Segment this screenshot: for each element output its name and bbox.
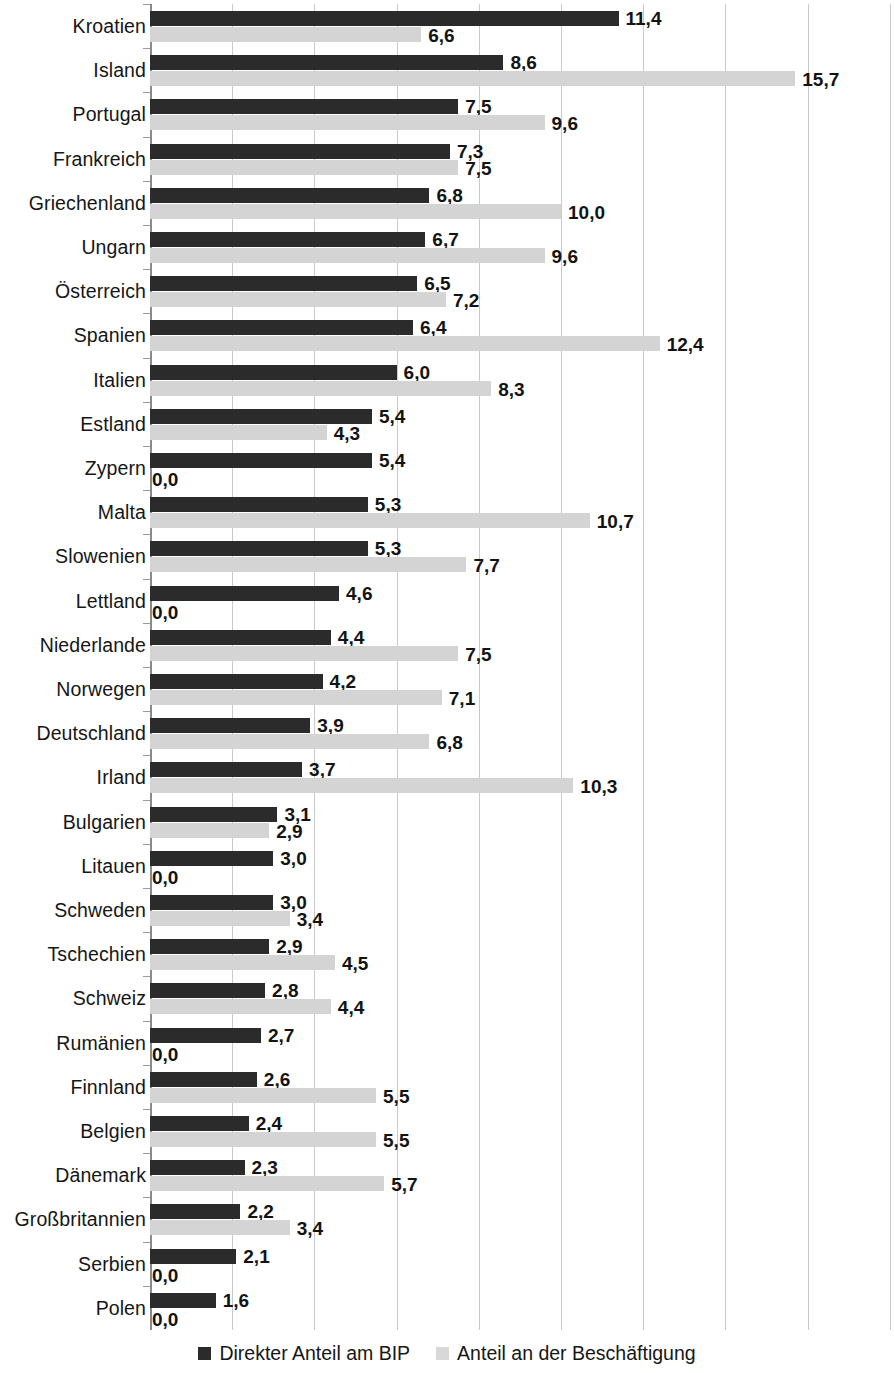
bar-gdp-share[interactable] bbox=[150, 541, 368, 556]
chart-row: Portugal7,59,6 bbox=[0, 92, 894, 136]
bar-gdp-share[interactable] bbox=[150, 188, 429, 203]
value-label-employment-share: 10,3 bbox=[580, 777, 617, 796]
bar-gdp-share[interactable] bbox=[150, 718, 310, 733]
bar-gdp-share[interactable] bbox=[150, 276, 417, 291]
bar-employment-share[interactable] bbox=[150, 381, 491, 396]
bar-employment-share[interactable] bbox=[150, 999, 331, 1014]
bar-gdp-share[interactable] bbox=[150, 453, 372, 468]
bar-gdp-share[interactable] bbox=[150, 144, 450, 159]
bar-employment-share[interactable] bbox=[150, 292, 446, 307]
category-label: Finnland bbox=[70, 1065, 146, 1109]
bar-employment-share[interactable] bbox=[150, 513, 590, 528]
category-label: Irland bbox=[97, 755, 146, 799]
category-label: Litauen bbox=[81, 844, 146, 888]
bar-gdp-share[interactable] bbox=[150, 1116, 249, 1131]
value-label-employment-share: 7,2 bbox=[453, 291, 479, 310]
bar-gdp-share[interactable] bbox=[150, 983, 265, 998]
value-label-gdp-share: 2,9 bbox=[276, 937, 302, 956]
legend-label-employment: Anteil an der Beschäftigung bbox=[457, 1342, 696, 1365]
bar-gdp-share[interactable] bbox=[150, 851, 273, 866]
bar-employment-share[interactable] bbox=[150, 248, 545, 263]
chart-row: Norwegen4,27,1 bbox=[0, 667, 894, 711]
chart-row: Spanien6,412,4 bbox=[0, 313, 894, 357]
category-label: Österreich bbox=[55, 269, 146, 313]
bar-gdp-share[interactable] bbox=[150, 55, 503, 70]
bar-gdp-share[interactable] bbox=[150, 586, 339, 601]
bar-employment-share[interactable] bbox=[150, 1132, 376, 1147]
bar-gdp-share[interactable] bbox=[150, 1072, 257, 1087]
value-label-gdp-share: 6,7 bbox=[432, 230, 458, 249]
bar-gdp-share[interactable] bbox=[150, 232, 425, 247]
value-label-employment-share: 0,0 bbox=[152, 603, 178, 622]
value-label-employment-share: 4,4 bbox=[338, 998, 364, 1017]
bar-employment-share[interactable] bbox=[150, 71, 795, 86]
chart-row: Serbien2,10,0 bbox=[0, 1242, 894, 1286]
category-label: Rumänien bbox=[56, 1021, 146, 1065]
chart-row: Bulgarien3,12,9 bbox=[0, 800, 894, 844]
chart-row: Dänemark2,35,7 bbox=[0, 1153, 894, 1197]
bar-gdp-share[interactable] bbox=[150, 630, 331, 645]
bar-gdp-share[interactable] bbox=[150, 11, 619, 26]
bar-gdp-share[interactable] bbox=[150, 320, 413, 335]
bar-gdp-share[interactable] bbox=[150, 365, 397, 380]
legend-item-employment[interactable]: Anteil an der Beschäftigung bbox=[436, 1342, 696, 1365]
chart-row: Slowenien5,37,7 bbox=[0, 534, 894, 578]
bar-employment-share[interactable] bbox=[150, 955, 335, 970]
chart-row: Österreich6,57,2 bbox=[0, 269, 894, 313]
bar-employment-share[interactable] bbox=[150, 27, 421, 42]
value-label-employment-share: 7,7 bbox=[473, 556, 499, 575]
value-label-employment-share: 5,7 bbox=[391, 1175, 417, 1194]
dark-square-icon bbox=[198, 1347, 211, 1360]
value-label-employment-share: 7,5 bbox=[465, 645, 491, 664]
bar-employment-share[interactable] bbox=[150, 1220, 290, 1235]
bar-gdp-share[interactable] bbox=[150, 99, 458, 114]
bar-gdp-share[interactable] bbox=[150, 807, 277, 822]
bar-gdp-share[interactable] bbox=[150, 1160, 245, 1175]
category-label: Spanien bbox=[74, 313, 146, 357]
chart-row: Ungarn6,79,6 bbox=[0, 225, 894, 269]
bar-employment-share[interactable] bbox=[150, 734, 429, 749]
bar-employment-share[interactable] bbox=[150, 690, 442, 705]
bar-gdp-share[interactable] bbox=[150, 1293, 216, 1308]
bar-employment-share[interactable] bbox=[150, 160, 458, 175]
chart-row: Niederlande4,47,5 bbox=[0, 623, 894, 667]
bar-gdp-share[interactable] bbox=[150, 674, 323, 689]
chart-row: Schweiz2,84,4 bbox=[0, 976, 894, 1020]
bar-employment-share[interactable] bbox=[150, 911, 290, 926]
bar-employment-share[interactable] bbox=[150, 336, 660, 351]
bar-employment-share[interactable] bbox=[150, 557, 466, 572]
value-label-employment-share: 6,6 bbox=[428, 26, 454, 45]
value-label-gdp-share: 6,8 bbox=[436, 186, 462, 205]
bar-employment-share[interactable] bbox=[150, 115, 545, 130]
value-label-gdp-share: 5,4 bbox=[379, 451, 405, 470]
category-label: Slowenien bbox=[55, 534, 146, 578]
bar-chart: Kroatien11,46,6Island8,615,7Portugal7,59… bbox=[0, 0, 894, 1373]
bar-employment-share[interactable] bbox=[150, 646, 458, 661]
bar-gdp-share[interactable] bbox=[150, 409, 372, 424]
bar-employment-share[interactable] bbox=[150, 823, 269, 838]
bar-employment-share[interactable] bbox=[150, 778, 573, 793]
value-label-gdp-share: 4,4 bbox=[338, 628, 364, 647]
legend-item-gdp[interactable]: Direkter Anteil am BIP bbox=[198, 1342, 410, 1365]
chart-row: Irland3,710,3 bbox=[0, 755, 894, 799]
value-label-employment-share: 0,0 bbox=[152, 1045, 178, 1064]
value-label-employment-share: 15,7 bbox=[802, 70, 839, 89]
bar-gdp-share[interactable] bbox=[150, 497, 368, 512]
chart-row: Belgien2,45,5 bbox=[0, 1109, 894, 1153]
bar-employment-share[interactable] bbox=[150, 204, 561, 219]
value-label-gdp-share: 2,8 bbox=[272, 981, 298, 1000]
bar-gdp-share[interactable] bbox=[150, 939, 269, 954]
bar-gdp-share[interactable] bbox=[150, 762, 302, 777]
bar-employment-share[interactable] bbox=[150, 425, 327, 440]
bar-gdp-share[interactable] bbox=[150, 895, 273, 910]
category-label: Kroatien bbox=[73, 4, 146, 48]
chart-row: Estland5,44,3 bbox=[0, 402, 894, 446]
category-label: Polen bbox=[96, 1286, 146, 1330]
category-label: Deutschland bbox=[36, 711, 146, 755]
category-label: Serbien bbox=[78, 1242, 146, 1286]
bar-gdp-share[interactable] bbox=[150, 1028, 261, 1043]
bar-gdp-share[interactable] bbox=[150, 1249, 236, 1264]
bar-employment-share[interactable] bbox=[150, 1176, 384, 1191]
bar-employment-share[interactable] bbox=[150, 1088, 376, 1103]
bar-gdp-share[interactable] bbox=[150, 1204, 240, 1219]
